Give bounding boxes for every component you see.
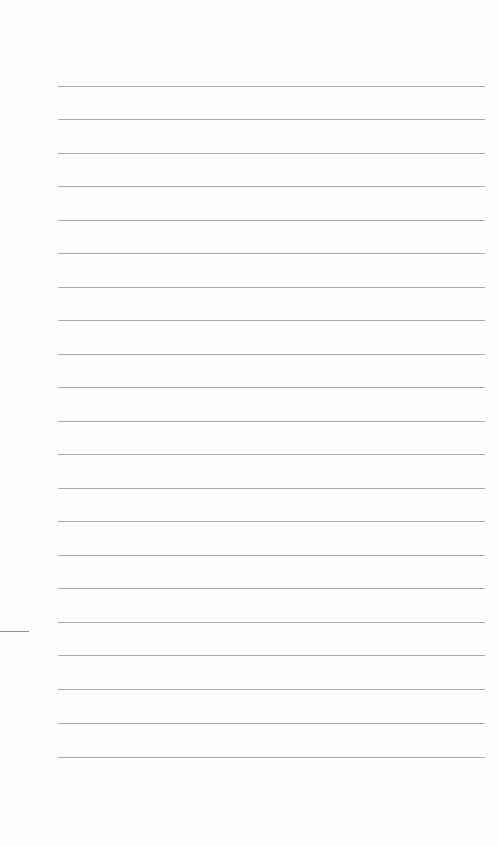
ruled-line <box>58 757 485 758</box>
ruled-line <box>58 723 485 724</box>
ruled-line <box>58 186 485 187</box>
ruled-line <box>58 655 485 656</box>
ruled-line <box>58 622 485 623</box>
ruled-line <box>58 320 485 321</box>
lined-paper-page <box>0 0 498 846</box>
ruled-line <box>58 521 485 522</box>
ruled-line <box>58 354 485 355</box>
ruled-line <box>58 119 485 120</box>
ruled-line <box>58 454 485 455</box>
ruled-line <box>58 387 485 388</box>
ruled-line <box>58 555 485 556</box>
margin-mark <box>0 631 29 632</box>
ruled-line <box>58 588 485 589</box>
ruled-line <box>58 86 485 87</box>
ruled-line <box>58 488 485 489</box>
ruled-line <box>58 689 485 690</box>
ruled-line <box>58 421 485 422</box>
ruled-line <box>58 287 485 288</box>
ruled-line <box>58 253 485 254</box>
ruled-line <box>58 220 485 221</box>
ruled-line <box>58 153 485 154</box>
